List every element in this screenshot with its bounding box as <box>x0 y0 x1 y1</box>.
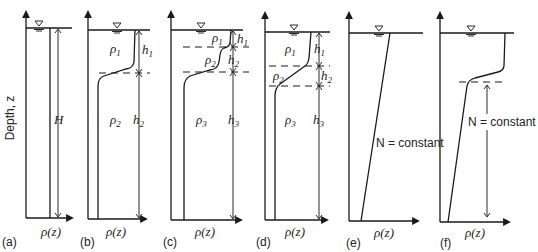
label-h1: h1 <box>314 41 325 58</box>
label-rho2: ρ2 <box>109 112 121 129</box>
label-rho3: ρ3 <box>284 112 296 129</box>
x-label: ρ(z) <box>105 224 126 239</box>
water-surface-icon <box>466 26 476 36</box>
label-h2: h2 <box>321 68 333 85</box>
density-profile <box>361 33 390 221</box>
panel-c: ρ1 h1 ρ2 h2 ρ3 h3 ρ(z) (c) <box>163 14 249 249</box>
water-surface-icon <box>289 25 299 35</box>
caption-c: (c) <box>163 235 177 249</box>
label-h1: h1 <box>142 42 153 59</box>
label-rho1: ρ1 <box>211 30 223 47</box>
stratification-diagram: Depth, z H ρ(z) (a) ρ1 <box>0 0 538 252</box>
n-constant-label: N = constant <box>376 136 444 150</box>
label-h3: h3 <box>228 112 240 129</box>
water-surface-icon <box>34 21 44 31</box>
label-rho2: ρ2 <box>272 68 284 85</box>
x-label: ρ(z) <box>194 224 215 239</box>
x-label: ρ(z) <box>284 224 305 239</box>
depth-axis-label: Depth, z <box>3 96 17 141</box>
label-h2: h2 <box>133 112 145 129</box>
label-rho1: ρ1 <box>109 41 121 58</box>
x-label: ρ(z) <box>464 225 485 240</box>
panel-b: ρ1 h1 ρ2 h2 ρ(z) (b) <box>80 14 153 249</box>
caption-e: (e) <box>346 236 361 250</box>
label-h3: h3 <box>313 112 325 129</box>
water-surface-icon <box>374 26 384 36</box>
panel-d: ρ1 h1 ρ2 h2 ρ3 h3 ρ(z) (d) <box>256 15 333 249</box>
caption-a: (a) <box>2 235 17 249</box>
label-rho1: ρ1 <box>284 41 296 58</box>
caption-d: (d) <box>256 235 271 249</box>
water-surface-icon <box>196 23 206 33</box>
label-h2: h2 <box>228 52 240 69</box>
water-surface-icon <box>112 23 122 33</box>
label-H: H <box>53 112 64 127</box>
label-h1: h1 <box>237 31 248 48</box>
panel-f: N = constant ρ(z) (f) <box>440 15 536 250</box>
x-label: ρ(z) <box>373 225 394 240</box>
label-rho2: ρ2 <box>204 52 216 69</box>
panel-e: N = constant ρ(z) (e) <box>346 15 444 250</box>
caption-f: (f) <box>440 236 451 250</box>
x-label: ρ(z) <box>40 224 61 239</box>
label-rho3: ρ3 <box>195 112 207 129</box>
caption-b: (b) <box>80 235 95 249</box>
n-constant-label: N = constant <box>468 115 536 129</box>
